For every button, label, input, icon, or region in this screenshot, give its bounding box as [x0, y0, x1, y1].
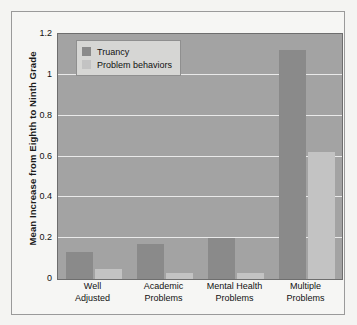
x-tick-label: Mental HealthProblems	[199, 281, 270, 304]
x-tick-label: WellAdjusted	[57, 281, 128, 304]
bar	[66, 252, 93, 279]
y-tick-label: 0	[28, 273, 52, 283]
y-axis-tick-labels: 00.20.40.60.811.2	[24, 0, 52, 325]
x-axis-tick-labels: WellAdjustedAcademicProblemsMental Healt…	[57, 281, 343, 315]
bar	[237, 273, 264, 279]
bar	[308, 152, 335, 279]
x-tick-label: AcademicProblems	[128, 281, 199, 304]
x-tick-label-line: Adjusted	[57, 293, 128, 305]
legend-item-truancy: Truancy	[82, 45, 172, 58]
y-tick-label: 1.2	[28, 28, 52, 38]
plot-area: Truancy Problem behaviors	[57, 33, 343, 280]
x-tick-label: MultipleProblems	[270, 281, 341, 304]
x-tick-label-line: Problems	[270, 293, 341, 305]
legend-item-problem-behaviors: Problem behaviors	[82, 58, 172, 71]
legend-swatch-truancy	[82, 47, 91, 56]
y-tick-label: 0.2	[28, 232, 52, 242]
y-tick-label: 1	[28, 69, 52, 79]
y-tick-label: 0.6	[28, 151, 52, 161]
bar	[208, 238, 235, 279]
y-tick-label: 0.8	[28, 110, 52, 120]
chart-legend: Truancy Problem behaviors	[76, 40, 181, 76]
legend-swatch-problem-behaviors	[82, 60, 91, 69]
x-tick-label-line: Well	[57, 281, 128, 293]
bar	[95, 269, 122, 279]
x-tick-label-line: Problems	[128, 293, 199, 305]
chart-figure: Mean Increase from Eighth to Ninth Grade…	[0, 0, 357, 325]
bar	[166, 273, 193, 279]
x-tick-label-line: Problems	[199, 293, 270, 305]
x-tick-label-line: Mental Health	[199, 281, 270, 293]
bar	[137, 244, 164, 279]
x-tick-label-line: Multiple	[270, 281, 341, 293]
y-tick-label: 0.4	[28, 191, 52, 201]
legend-label-problem-behaviors: Problem behaviors	[97, 60, 172, 70]
x-tick-label-line: Academic	[128, 281, 199, 293]
bar	[279, 50, 306, 279]
legend-label-truancy: Truancy	[97, 47, 129, 57]
